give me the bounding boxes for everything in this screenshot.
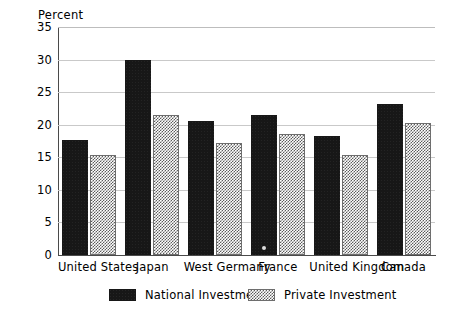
legend-label: Private Investment [284, 288, 397, 302]
bar-national [251, 115, 277, 255]
bar-national [125, 60, 151, 255]
bar-chart: Percent 05101520253035 United StatesJapa… [0, 0, 459, 324]
gridline [58, 27, 435, 28]
bar-private [216, 143, 242, 255]
legend-item: National Investment [109, 288, 266, 302]
gridline [58, 92, 435, 93]
y-tick-label: 5 [18, 215, 52, 229]
y-tick-label: 20 [18, 118, 52, 132]
bar-private [279, 134, 305, 255]
y-tick-label: 15 [18, 150, 52, 164]
x-tick-label: West Germany [184, 260, 247, 274]
y-tick-label: 0 [18, 248, 52, 262]
bar-private [153, 115, 179, 255]
bar-national [188, 121, 214, 255]
solid-black-swatch [109, 289, 136, 301]
chart-legend: National InvestmentPrivate Investment [0, 288, 459, 310]
x-tick-label: France [247, 260, 310, 274]
gridline [58, 60, 435, 61]
legend-item: Private Investment [248, 288, 397, 302]
y-tick-label: 35 [18, 20, 52, 34]
plot-area [58, 27, 435, 255]
x-tick-label: Canada [372, 260, 435, 274]
bar-national [314, 136, 340, 255]
x-tick-label: United States [58, 260, 121, 274]
bar-private [342, 155, 368, 255]
bar-private [405, 123, 431, 255]
hatched-swatch [248, 289, 275, 301]
bar-national [62, 140, 88, 255]
x-tick-label: United Kingdom [309, 260, 372, 274]
y-tick-label: 25 [18, 85, 52, 99]
x-tick-label: Japan [121, 260, 184, 274]
bar-private [90, 155, 116, 255]
bar-national [377, 104, 403, 255]
y-tick-label: 30 [18, 53, 52, 67]
y-tick-label: 10 [18, 183, 52, 197]
scan-artifact [262, 246, 266, 250]
